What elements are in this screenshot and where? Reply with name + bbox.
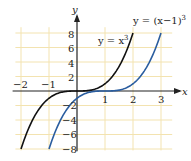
y-axis-label: y xyxy=(71,4,78,15)
xtick: 2 xyxy=(130,94,136,105)
xtick: 3 xyxy=(158,94,164,105)
ytick: 2 xyxy=(68,72,74,83)
xtick: 1 xyxy=(102,94,108,105)
curve1-label: y = x3 xyxy=(97,34,129,46)
ytick: 4 xyxy=(68,58,74,69)
xtick: −2 xyxy=(13,79,28,90)
ytick: −6 xyxy=(62,129,77,140)
ytick: −2 xyxy=(62,100,77,111)
ytick: 8 xyxy=(68,29,74,40)
ytick: −8 xyxy=(62,144,77,155)
ytick: 6 xyxy=(68,43,74,54)
ytick: −4 xyxy=(62,115,77,126)
cubic-graph: y x −2 −1 1 2 3 8 6 4 2 −2 −4 −6 −8 y = … xyxy=(0,0,191,161)
x-axis-label: x xyxy=(182,86,188,97)
xtick: −1 xyxy=(41,79,56,90)
curve2-label: y = (x−1)3 xyxy=(132,14,186,26)
